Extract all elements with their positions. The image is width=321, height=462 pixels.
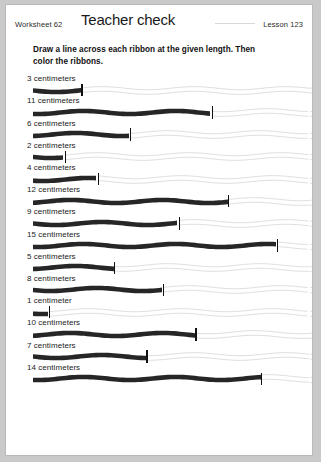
- ribbon-outline-bottom: [278, 247, 308, 250]
- ribbon-colored-segment: [33, 131, 129, 139]
- ribbon-colored-segment: [33, 220, 177, 228]
- ribbon-colored-segment: [33, 353, 147, 361]
- ribbon-outline-top: [115, 264, 310, 267]
- ribbon[interactable]: [6, 239, 313, 252]
- ribbon-row: 11 centimeters: [6, 96, 312, 118]
- ribbon-row: 5 centimeters: [6, 252, 312, 274]
- ribbon-colored-segment: [33, 88, 81, 94]
- ribbon-length-label: 10 centimeters: [27, 318, 80, 327]
- measurement-tick-mark[interactable]: [179, 217, 180, 229]
- measurement-tick-mark[interactable]: [146, 350, 147, 362]
- measurement-tick-mark[interactable]: [114, 262, 115, 274]
- header-rule: [215, 23, 255, 24]
- ribbon-outline-bottom: [66, 158, 309, 161]
- ribbon-row: 1 centimeter: [6, 296, 312, 318]
- ribbon-colored-segment: [33, 109, 210, 117]
- measurement-tick-mark[interactable]: [65, 151, 66, 163]
- ribbon-outline-bottom: [261, 379, 309, 382]
- ribbon-graphic: [6, 217, 313, 230]
- ribbon-colored-segment: [33, 175, 96, 183]
- measurement-tick-mark[interactable]: [130, 128, 131, 140]
- measurement-tick-mark[interactable]: [81, 84, 82, 96]
- ribbon-graphic: [6, 106, 313, 119]
- ribbon-tail-icon: [310, 242, 313, 253]
- worksheet-header: Worksheet 62 Teacher check Lesson 123: [15, 11, 303, 37]
- ribbon-length-label: 15 centimeters: [27, 230, 80, 239]
- ribbon-tail-icon: [310, 330, 313, 341]
- ribbon[interactable]: [6, 128, 313, 141]
- instructions-line-2: color the ribbons.: [33, 56, 296, 68]
- ribbon-rows: 3 centimeters11 centimeters6 centimeters…: [6, 74, 312, 385]
- ribbon-tail-icon: [310, 264, 313, 275]
- ribbon-outline-top: [82, 86, 310, 89]
- ribbon-length-label: 6 centimeters: [27, 119, 76, 128]
- measurement-tick-mark[interactable]: [212, 106, 213, 118]
- ribbon-length-label: 5 centimeters: [27, 252, 76, 261]
- ribbon-tail-icon: [310, 175, 313, 186]
- ribbon[interactable]: [6, 372, 313, 385]
- ribbon-colored-segment: [33, 286, 162, 294]
- ribbon[interactable]: [6, 306, 313, 319]
- ribbon-outline-bottom: [131, 135, 308, 138]
- ribbon-length-label: 11 centimeters: [27, 96, 80, 105]
- measurement-tick-mark[interactable]: [195, 328, 196, 340]
- instructions: Draw a line across each ribbon at the gi…: [33, 44, 296, 67]
- ribbon-outline-bottom: [180, 224, 309, 227]
- ribbon-tail-icon: [310, 131, 313, 142]
- ribbon-row: 4 centimeters: [6, 163, 312, 185]
- ribbon-outline-top: [212, 109, 308, 112]
- ribbon[interactable]: [6, 150, 313, 163]
- ribbon-row: 6 centimeters: [6, 119, 312, 141]
- ribbon-graphic: [6, 306, 313, 319]
- ribbon[interactable]: [6, 217, 313, 230]
- ribbon[interactable]: [6, 283, 313, 296]
- ribbon-length-label: 4 centimeters: [27, 163, 76, 172]
- measurement-tick-mark[interactable]: [228, 195, 229, 207]
- ribbon-outline-bottom: [196, 335, 310, 338]
- ribbon-length-label: 1 centimeter: [27, 296, 72, 305]
- worksheet-number: Worksheet 62: [15, 20, 62, 29]
- ribbon-outline-bottom: [147, 357, 309, 360]
- ribbon-length-label: 2 centimeters: [27, 141, 76, 150]
- ribbon-outline-bottom: [229, 202, 310, 205]
- ribbon-graphic: [6, 283, 313, 296]
- ribbon[interactable]: [6, 350, 313, 363]
- ribbon-outline-top: [49, 308, 307, 311]
- ribbon-tail-icon: [310, 197, 313, 208]
- ribbon-graphic: [6, 128, 313, 141]
- ribbon-graphic: [6, 84, 313, 97]
- ribbon[interactable]: [6, 261, 313, 274]
- measurement-tick-mark[interactable]: [49, 306, 50, 318]
- ribbon-row: 12 centimeters: [6, 185, 312, 207]
- measurement-tick-mark[interactable]: [163, 284, 164, 296]
- ribbon[interactable]: [6, 328, 313, 341]
- ribbon-tail-icon: [310, 351, 313, 362]
- ribbon-outline-bottom: [98, 180, 308, 183]
- ribbon-row: 3 centimeters: [6, 74, 312, 96]
- ribbon-graphic: [6, 372, 313, 385]
- ribbon-length-label: 3 centimeters: [27, 74, 76, 83]
- ribbon-graphic: [6, 150, 313, 163]
- ribbon-outline-bottom: [49, 313, 307, 316]
- ribbon-row: 10 centimeters: [6, 318, 312, 340]
- ribbon-outline-top: [98, 175, 308, 178]
- ribbon[interactable]: [6, 195, 313, 208]
- measurement-tick-mark[interactable]: [98, 173, 99, 185]
- ribbon-graphic: [6, 261, 313, 274]
- ribbon-length-label: 9 centimeters: [27, 207, 76, 216]
- ribbon[interactable]: [6, 84, 313, 97]
- measurement-tick-mark[interactable]: [261, 373, 262, 385]
- ribbon-tail-icon: [310, 285, 313, 296]
- measurement-tick-mark[interactable]: [277, 239, 278, 251]
- ribbon[interactable]: [6, 106, 313, 119]
- worksheet-page: Worksheet 62 Teacher check Lesson 123 Dr…: [5, 4, 313, 456]
- ribbon-tail-icon: [310, 152, 313, 163]
- ribbon-outline-top: [229, 197, 310, 200]
- ribbon-tail-icon: [310, 85, 313, 96]
- ribbon-outline-bottom: [212, 113, 308, 116]
- ribbon-outline-top: [131, 131, 308, 134]
- ribbon-colored-segment: [33, 330, 195, 338]
- ribbon[interactable]: [6, 173, 313, 186]
- ribbon-graphic: [6, 350, 313, 363]
- ribbon-tail-icon: [310, 308, 313, 319]
